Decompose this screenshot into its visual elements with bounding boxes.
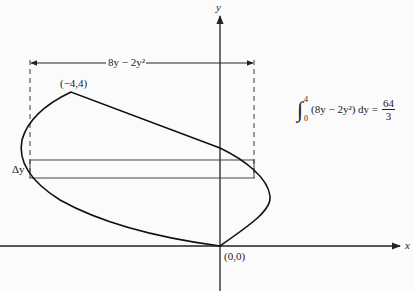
integral-sign: ∫: [297, 99, 303, 121]
delta-y-label: Δy: [12, 164, 25, 175]
integral-limits: 4 0: [304, 95, 308, 123]
y-axis-label: y: [216, 2, 221, 13]
result-numerator: 64: [382, 97, 395, 110]
integral-expression: ∫ 4 0 (8y − 2y²) dy = 64 3: [297, 95, 395, 123]
diagram-canvas: [0, 0, 413, 291]
result-denominator: 3: [386, 110, 392, 122]
point-label-peak: (−4,4): [60, 78, 87, 89]
result-fraction: 64 3: [382, 97, 395, 122]
width-label: 8y − 2y²: [108, 57, 145, 68]
region-curve: [21, 92, 270, 246]
lower-limit: 0: [304, 114, 308, 123]
x-axis-label: x: [405, 240, 410, 251]
upper-limit: 4: [304, 95, 308, 104]
point-label-origin: (0,0): [224, 251, 245, 262]
integrand: (8y − 2y²) dy =: [311, 103, 378, 115]
